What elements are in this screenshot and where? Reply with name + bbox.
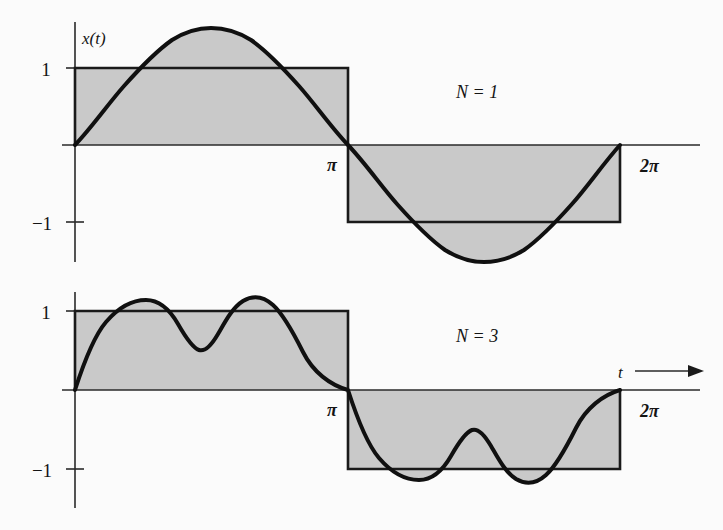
x-axis-label-n3: t <box>618 363 624 382</box>
x-axis-arrow-n3 <box>635 365 704 377</box>
figure-root: x(t) 1 −1 π 2π N = 1 <box>0 0 723 530</box>
y-axis-label-n1: x(t) <box>81 29 106 48</box>
annotation-n1: N = 1 <box>455 82 498 102</box>
x-tick-label-twopi-n1: 2π <box>639 156 660 176</box>
x-tick-label-twopi-n3: 2π <box>639 401 660 421</box>
x-tick-label-pi-n1: π <box>327 155 338 175</box>
fourier-series-figure: x(t) 1 −1 π 2π N = 1 <box>0 0 723 530</box>
y-tick-label-one-n1: 1 <box>41 59 51 80</box>
x-tick-label-pi-n3: π <box>327 400 338 420</box>
panel-n3: 1 −1 π 2π N = 3 t <box>32 292 704 508</box>
panel-n1: x(t) 1 −1 π 2π N = 1 <box>32 22 700 262</box>
y-tick-label-minusone-n3: −1 <box>32 460 52 481</box>
y-tick-label-minusone-n1: −1 <box>32 213 52 234</box>
y-tick-label-one-n3: 1 <box>41 302 51 323</box>
annotation-n3: N = 3 <box>455 326 498 346</box>
